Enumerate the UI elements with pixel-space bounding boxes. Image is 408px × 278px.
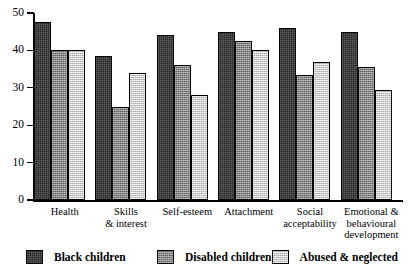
bar-group xyxy=(218,13,279,200)
y-tick-label: 0 xyxy=(18,194,24,206)
bar xyxy=(341,32,358,200)
bar xyxy=(34,22,51,200)
bar xyxy=(296,75,313,200)
legend-item: Black children xyxy=(26,250,157,264)
bar xyxy=(358,67,375,200)
bar-group xyxy=(34,13,95,200)
y-tick-mark xyxy=(27,87,34,88)
y-tick-label: 50 xyxy=(13,7,25,19)
y-tick-mark xyxy=(27,199,34,200)
bar xyxy=(95,56,112,200)
legend-swatch-icon xyxy=(157,250,174,264)
bar xyxy=(191,95,208,200)
y-tick-mark xyxy=(27,50,34,51)
bar xyxy=(129,73,146,200)
legend-swatch-icon xyxy=(272,250,289,264)
y-tick-mark xyxy=(27,162,34,163)
x-axis-line xyxy=(33,200,403,202)
bar-group xyxy=(279,13,340,200)
bar xyxy=(375,90,392,200)
bar xyxy=(112,107,129,201)
y-tick-mark xyxy=(27,125,34,126)
bar xyxy=(313,62,330,200)
bar xyxy=(51,50,68,200)
bar-group xyxy=(157,13,218,200)
bar-group xyxy=(341,13,402,200)
category-label: Skills & interest xyxy=(95,204,156,241)
y-tick-label: 10 xyxy=(13,157,25,169)
bar xyxy=(218,32,235,200)
y-tick-label: 20 xyxy=(13,119,25,131)
bar-group xyxy=(95,13,156,200)
chart-legend: Black childrenDisabled childrenAbused & … xyxy=(26,250,398,264)
category-label: Health xyxy=(34,204,95,241)
legend-item: Abused & neglected xyxy=(272,250,398,264)
bar xyxy=(252,50,269,200)
legend-item: Disabled children xyxy=(157,250,272,264)
bar xyxy=(235,41,252,200)
bar xyxy=(174,65,191,200)
x-axis-category-labels: HealthSkills & interestSelf-esteemAttach… xyxy=(34,204,402,241)
category-label: Social acceptability xyxy=(279,204,340,241)
bar-groups xyxy=(34,13,402,200)
category-label: Emotional & behavioural development xyxy=(341,204,402,241)
legend-label: Black children xyxy=(54,251,126,263)
category-label: Self-esteem xyxy=(157,204,218,241)
bar xyxy=(157,35,174,200)
category-label: Attachment xyxy=(218,204,279,241)
bar-chart: 01020304050 HealthSkills & interestSelf-… xyxy=(0,0,408,278)
y-tick-mark xyxy=(27,12,34,13)
bar xyxy=(68,50,85,200)
y-tick-label: 30 xyxy=(13,82,25,94)
legend-label: Disabled children xyxy=(185,251,271,263)
legend-swatch-icon xyxy=(26,250,43,264)
y-tick-label: 40 xyxy=(13,44,25,56)
bar xyxy=(279,28,296,200)
legend-label: Abused & neglected xyxy=(300,251,398,263)
